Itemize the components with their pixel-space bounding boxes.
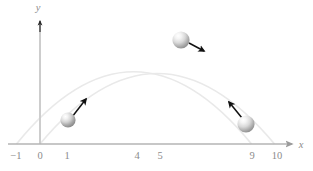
ball-ascending-group <box>60 99 86 128</box>
x-tick-label-5: 5 <box>157 150 162 161</box>
ball-near-apex <box>172 31 189 48</box>
x-axis-label: x <box>298 139 304 150</box>
x-tick-labels: −1 0 1 4 5 9 10 <box>10 150 282 161</box>
trajectory-curve-a <box>17 72 252 144</box>
x-tick-label-0: 0 <box>37 150 42 161</box>
y-axis-label: y <box>35 2 41 13</box>
trajectory-curves <box>17 72 275 144</box>
x-tick-label-10: 10 <box>272 150 283 161</box>
x-tick-label-9: 9 <box>249 150 254 161</box>
ball-near-apex-group <box>172 31 204 51</box>
ball-descending <box>237 115 254 132</box>
trajectory-curve-b <box>40 74 275 145</box>
x-tick-label--1: −1 <box>10 150 21 161</box>
x-tick-label-1: 1 <box>64 150 69 161</box>
x-tick-label-4: 4 <box>134 150 140 161</box>
ball-descending-group <box>229 102 255 133</box>
projectile-figure: y x −1 0 1 4 5 9 10 <box>0 0 313 171</box>
figure-canvas: y x −1 0 1 4 5 9 10 <box>0 0 313 171</box>
ball-ascending <box>60 112 75 127</box>
velocity-arrow-down-right <box>189 43 204 51</box>
